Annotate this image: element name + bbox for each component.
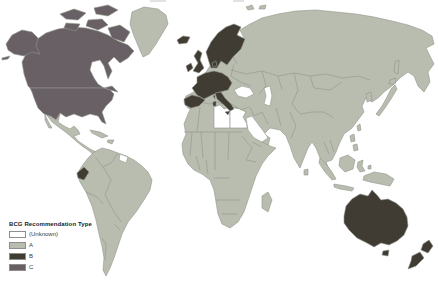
legend-item-unknown: (Unknown) [9,230,105,238]
region-mexico-central-america [46,114,98,156]
region-philippines-south [353,144,358,151]
region-nz-north [421,240,433,253]
region-philippines [350,134,355,142]
legend-swatch-c [9,264,26,271]
region-svalbard [246,5,254,10]
region-arctic-island-1 [60,9,86,20]
region-cuba [90,130,108,138]
region-new-guinea [363,172,394,186]
legend-label-unknown: (Unknown) [29,231,58,238]
map-figure: BCG Recommendation Type (Unknown) A B C [0,0,438,291]
legend-label-b: B [29,253,33,260]
region-iceland [177,36,190,44]
region-arctic-island-4 [86,19,108,30]
legend-swatch-unknown [9,231,26,238]
region-uk [193,50,204,73]
legend-title: BCG Recommendation Type [9,221,105,227]
map-legend: BCG Recommendation Type (Unknown) A B C [9,221,105,274]
regions-class-c [2,5,134,124]
region-australia [344,190,408,247]
region-tasmania [382,250,389,256]
region-java [334,184,354,191]
legend-label-a: A [29,242,33,249]
region-borneo [339,155,355,172]
region-sri-lanka [304,169,308,175]
region-madagascar [262,192,272,212]
legend-swatch-a [9,242,26,249]
region-ireland [186,63,193,72]
region-moluccas [368,165,371,169]
legend-item-b: B [9,252,105,260]
region-alaska [6,30,40,56]
region-aleutians [2,56,10,60]
region-sakhalin [394,60,399,74]
region-taiwan [357,124,361,131]
legend-label-c: C [29,264,33,271]
legend-item-c: C [9,263,105,271]
region-hispaniola [107,140,114,144]
region-sardinia [213,101,216,106]
region-nz-south [408,252,424,269]
legend-swatch-b [9,253,26,260]
region-franz-josef [259,5,266,9]
region-sulawesi [357,160,365,172]
region-usa [30,88,114,124]
region-korea [366,92,372,102]
region-arctic-island-2 [94,5,118,16]
legend-item-a: A [9,241,105,249]
region-greenland [130,7,168,57]
